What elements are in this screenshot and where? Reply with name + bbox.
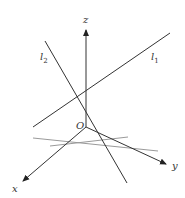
l1-label: l1 xyxy=(151,51,159,65)
z-axis-label: z xyxy=(82,14,89,25)
x-axis-label: x xyxy=(12,183,18,194)
diagram-canvas: z x y O l1 l2 xyxy=(0,0,185,198)
origin-label: O xyxy=(76,120,84,131)
x-axis xyxy=(23,127,86,181)
plane-line-1 xyxy=(33,138,158,151)
y-axis-label: y xyxy=(171,160,178,171)
l2-label: l2 xyxy=(40,51,48,65)
line-l1 xyxy=(33,33,170,127)
